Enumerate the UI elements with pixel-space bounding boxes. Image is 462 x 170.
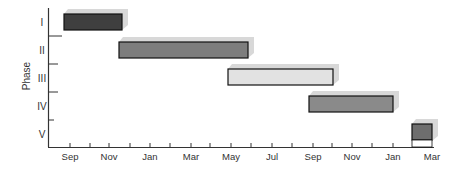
month-label: Mar bbox=[424, 151, 440, 162]
month-label: Sep bbox=[305, 151, 322, 162]
y-axis-label: Phase bbox=[21, 61, 32, 90]
phase-label-2: II bbox=[39, 45, 45, 56]
month-label: Nov bbox=[101, 151, 118, 162]
month-label: May bbox=[222, 151, 240, 162]
phase-label-1: I bbox=[41, 17, 44, 28]
month-label: Mar bbox=[183, 151, 199, 162]
gantt-bar-phase-4 bbox=[309, 91, 399, 112]
y-axis-tick-labels: I II III IV V bbox=[37, 17, 47, 140]
month-label: Jul bbox=[266, 151, 278, 162]
gantt-bar-phase-1 bbox=[64, 9, 128, 30]
x-axis-tick-labels: Sep Nov Jan Mar May Jul Sep Nov Jan Mar bbox=[62, 151, 441, 162]
y-axis-ticks bbox=[48, 36, 62, 120]
gantt-bar-phase-3 bbox=[228, 64, 339, 85]
month-label: Jan bbox=[142, 151, 157, 162]
phase-label-5: V bbox=[39, 129, 46, 140]
phase-label-3: III bbox=[38, 73, 46, 84]
month-label: Jan bbox=[385, 151, 400, 162]
x-axis-ticks bbox=[70, 143, 413, 147]
month-label: Nov bbox=[344, 151, 361, 162]
month-label: Sep bbox=[62, 151, 79, 162]
gantt-chart: Phase I II III IV V bbox=[0, 0, 462, 170]
gantt-bar-phase-2 bbox=[119, 37, 254, 58]
phase-label-4: IV bbox=[37, 101, 47, 112]
gantt-bar-phase-5 bbox=[412, 119, 438, 147]
